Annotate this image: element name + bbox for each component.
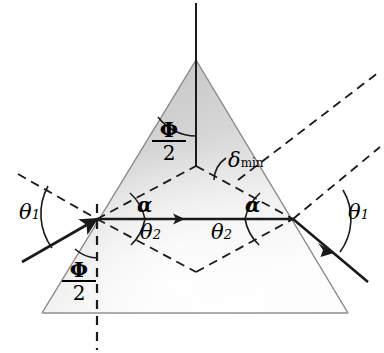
deviation-angle-label: δmin [228,150,264,171]
diagram-canvas [0,0,384,353]
theta1-right-symbol: θ [348,200,361,224]
theta2-right-label: θ2 [211,222,232,243]
theta1-right-label: θ1 [348,202,369,223]
deviation-symbol: δ [228,148,241,172]
base-half-angle-denominator: 2 [62,283,96,303]
theta2-right-subscript: 2 [224,227,232,242]
apex-half-angle-label: Φ 2 [152,121,186,163]
prism-refraction-diagram: Φ 2 δmin α θ2 α θ2 θ1 θ1 Φ 2 [0,0,384,353]
base-half-angle-numerator: Φ [62,261,96,279]
theta1-right-subscript: 1 [361,207,369,222]
theta2-right-symbol: θ [211,220,224,244]
base-half-angle-label: Φ 2 [62,261,96,303]
alpha-left-label: α [137,195,152,215]
apex-half-angle-denominator: 2 [152,143,186,163]
theta2-left-subscript: 2 [153,227,161,242]
theta1-left-symbol: θ [19,200,32,224]
theta2-left-label: θ2 [140,222,161,243]
deviation-subscript: min [241,156,264,170]
theta2-left-symbol: θ [140,220,153,244]
arc-theta1-left [41,186,52,248]
apex-half-angle-numerator: Φ [152,121,186,139]
theta1-left-label: θ1 [19,202,40,223]
alpha-right-label: α [245,195,260,215]
theta1-left-subscript: 1 [32,207,40,222]
